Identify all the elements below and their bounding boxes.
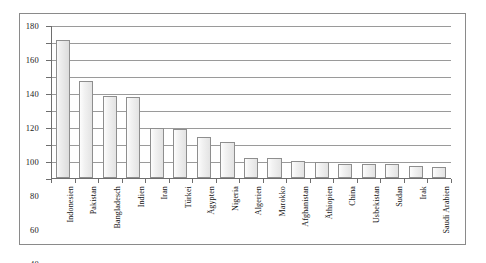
y-axis-tick-label: 40 bbox=[30, 259, 39, 263]
x-axis-label: Türkei bbox=[184, 186, 193, 208]
x-axis-tick bbox=[404, 179, 405, 183]
y-axis-tick-label: 180 bbox=[26, 21, 39, 31]
y-axis-tick-label: 160 bbox=[26, 55, 39, 65]
y-axis-tick: 80 bbox=[46, 111, 51, 112]
y-axis-tick-label: 120 bbox=[26, 123, 39, 133]
y-axis-tick: 60 bbox=[46, 128, 51, 129]
y-axis-line bbox=[51, 26, 52, 179]
x-axis-tick bbox=[75, 179, 76, 183]
y-axis-tick-label: 80 bbox=[30, 191, 39, 201]
y-axis-tick-label: 60 bbox=[30, 225, 39, 235]
bar-irak bbox=[409, 166, 423, 178]
x-axis-label: Usbekistan bbox=[372, 186, 381, 223]
bar-indonesien bbox=[56, 40, 70, 178]
x-axis-tick bbox=[310, 179, 311, 183]
x-axis-tick bbox=[239, 179, 240, 183]
chart-frame: 020406080100120140160180 IndonesienPakis… bbox=[19, 13, 466, 245]
x-axis-label: Irak bbox=[419, 186, 428, 199]
x-axis-tick bbox=[192, 179, 193, 183]
x-axis-tick bbox=[169, 179, 170, 183]
x-axis-tick bbox=[427, 179, 428, 183]
bar-nigeria bbox=[220, 142, 234, 178]
bar-saudi-arabien bbox=[432, 167, 446, 178]
x-axis-label: Marokko bbox=[278, 186, 287, 216]
bar-äthiopien bbox=[315, 162, 329, 178]
bar-china bbox=[338, 164, 352, 178]
x-axis-tick bbox=[98, 179, 99, 183]
y-axis-tick-label: 100 bbox=[26, 157, 39, 167]
y-axis-tick-label: 140 bbox=[26, 89, 39, 99]
gridline bbox=[51, 94, 451, 95]
bar-algerien bbox=[244, 158, 258, 178]
y-axis-tick: 160 bbox=[46, 43, 51, 44]
x-axis-tick bbox=[145, 179, 146, 183]
plot-area: 020406080100120140160180 bbox=[51, 26, 451, 179]
x-axis-label: Algerien bbox=[254, 186, 263, 215]
x-axis-label: Nigeria bbox=[231, 186, 240, 211]
bar-sudan bbox=[385, 164, 399, 178]
gridline bbox=[51, 43, 451, 44]
bar-türkei bbox=[173, 129, 187, 178]
bar-pakistan bbox=[79, 81, 93, 178]
bar-iran bbox=[150, 128, 164, 178]
y-axis-tick: 180 bbox=[46, 26, 51, 27]
x-axis-label: Bangladesch bbox=[113, 186, 122, 229]
x-axis-tick bbox=[451, 179, 452, 183]
x-axis-tick bbox=[380, 179, 381, 183]
x-axis-tick bbox=[333, 179, 334, 183]
y-axis-tick: 20 bbox=[46, 162, 51, 163]
gridline bbox=[51, 77, 451, 78]
x-axis-tick bbox=[357, 179, 358, 183]
x-axis-labels: IndonesienPakistanBangladeschIndienIranT… bbox=[51, 186, 451, 244]
bar-indien bbox=[126, 97, 140, 178]
bar-bangladesch bbox=[103, 96, 117, 178]
bar-ägypten bbox=[197, 137, 211, 178]
bar-usbekistan bbox=[362, 164, 376, 178]
x-axis-label: Sudan bbox=[395, 186, 404, 207]
y-axis-tick: 140 bbox=[46, 60, 51, 61]
x-axis-tick bbox=[286, 179, 287, 183]
bar-marokko bbox=[267, 158, 281, 178]
gridline bbox=[51, 60, 451, 61]
x-axis-tick bbox=[216, 179, 217, 183]
gridline bbox=[51, 26, 451, 27]
x-axis-line bbox=[51, 178, 451, 179]
x-axis-tick bbox=[51, 179, 52, 183]
x-axis-label: Indien bbox=[137, 186, 146, 207]
x-axis-label: Iran bbox=[160, 186, 169, 199]
x-axis-label: Ägypten bbox=[207, 186, 216, 215]
x-axis-tick bbox=[122, 179, 123, 183]
y-axis-tick: 100 bbox=[46, 94, 51, 95]
y-axis-tick: 120 bbox=[46, 77, 51, 78]
x-axis-label: Afghanistan bbox=[301, 186, 310, 227]
x-axis-tick bbox=[263, 179, 264, 183]
x-axis-label: Äthiopien bbox=[325, 186, 334, 219]
x-axis-label: Saudi Arabien bbox=[442, 186, 451, 234]
x-axis-label: Indonesien bbox=[66, 186, 75, 223]
y-axis-tick: 40 bbox=[46, 145, 51, 146]
x-axis-label: China bbox=[348, 186, 357, 206]
x-axis-label: Pakistan bbox=[89, 186, 98, 214]
bar-afghanistan bbox=[291, 161, 305, 178]
